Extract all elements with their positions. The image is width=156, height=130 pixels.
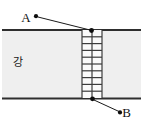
river-label: 강 xyxy=(13,56,23,69)
diagram-canvas: 강 A B xyxy=(0,0,156,130)
river-bridge-diagram: 강 A B xyxy=(0,0,156,130)
bridge-top-marker xyxy=(89,28,94,33)
bridge-bottom-marker xyxy=(90,96,95,101)
point-a-label: A xyxy=(21,10,31,25)
point-a-marker xyxy=(34,14,38,18)
point-b-pointer-line xyxy=(94,100,119,112)
point-a-pointer-line xyxy=(38,17,90,30)
point-b-label: B xyxy=(122,105,131,120)
